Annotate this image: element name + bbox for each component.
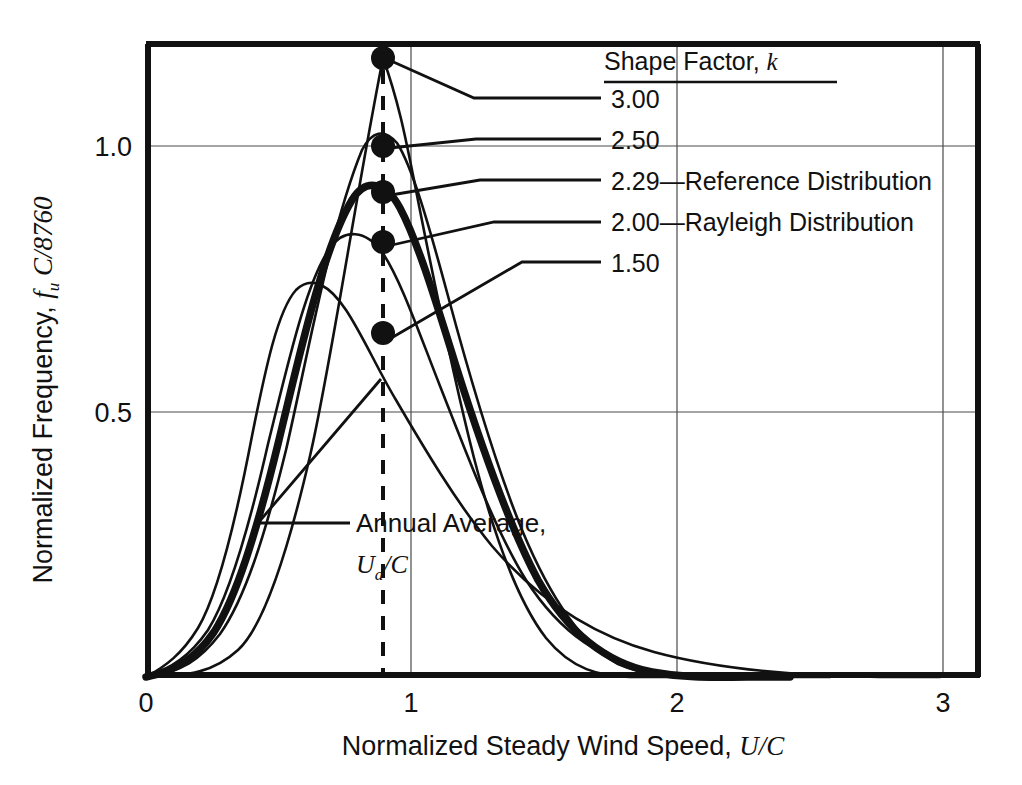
legend-title-text: Shape Factor, [604, 47, 767, 75]
legend-title: Shape Factor, k [604, 47, 779, 75]
y-axis-title-sub: u [44, 283, 63, 292]
ytick-label-1.0: 1.0 [94, 132, 132, 162]
y-axis-title-italic-c: C/8760 [28, 196, 58, 283]
legend-label-3.00: 3.00 [611, 85, 660, 113]
y-axis-title-text: Normalized Frequency, [28, 299, 58, 584]
legend-label-2.50: 2.50 [611, 126, 660, 154]
legend-label-2.00: 2.00—Rayleigh Distribution [611, 208, 914, 236]
xtick-label-3: 3 [935, 688, 950, 718]
marker-k-2.00 [371, 230, 395, 254]
legend-title-italic-k: k [767, 48, 779, 75]
annual-average-symbol-sub: a [375, 565, 384, 584]
annual-average-label: Annual Average, [356, 508, 546, 538]
legend-label-1.50: 1.50 [611, 249, 660, 277]
y-axis-title: Normalized Frequency, fu C/8760 [28, 196, 63, 583]
marker-k-2.29 [371, 180, 395, 204]
marker-k-3.00 [371, 46, 395, 70]
ytick-label-0.5: 0.5 [94, 398, 132, 428]
x-axis-title-italic: U/C [739, 731, 785, 761]
xtick-label-1: 1 [403, 688, 418, 718]
xtick-label-0: 0 [138, 688, 153, 718]
x-axis-title: Normalized Steady Wind Speed, U/C [342, 731, 786, 761]
weibull-distribution-figure: Shape Factor, k 3.00 2.50 2.29—Reference… [0, 0, 1022, 785]
x-axis-title-text: Normalized Steady Wind Speed, [342, 731, 740, 761]
chart-canvas: Shape Factor, k 3.00 2.50 2.29—Reference… [0, 0, 1022, 785]
marker-k-1.50 [371, 321, 395, 345]
marker-k-2.50 [371, 134, 395, 158]
xtick-label-2: 2 [669, 688, 684, 718]
annual-average-symbol-rest: /C [381, 550, 408, 579]
figure-background [0, 0, 1022, 785]
legend-label-2.29: 2.29—Reference Distribution [611, 167, 932, 195]
